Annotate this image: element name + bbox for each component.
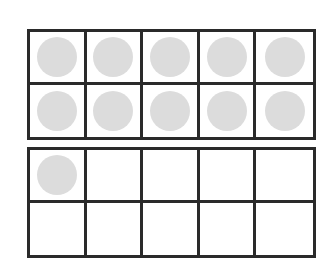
frame-cell <box>200 32 257 85</box>
frame-cell <box>143 85 200 138</box>
ten-frame-bottom <box>27 147 316 258</box>
frame-cell <box>143 32 200 85</box>
counter-circle-icon <box>207 37 247 77</box>
counter-circle-icon <box>93 37 133 77</box>
frame-cell <box>30 32 87 85</box>
frame-cell <box>256 150 313 203</box>
frame-cell <box>87 150 144 203</box>
frame-cell <box>200 85 257 138</box>
counter-circle-icon <box>150 91 190 131</box>
frame-cell <box>87 203 144 256</box>
frame-cell <box>256 32 313 85</box>
counter-circle-icon <box>37 91 77 131</box>
counter-circle-icon <box>37 37 77 77</box>
frame-cell <box>256 85 313 138</box>
frame-cell <box>30 85 87 138</box>
counter-circle-icon <box>150 37 190 77</box>
frame-cell <box>87 85 144 138</box>
frame-cell <box>30 150 87 203</box>
counter-circle-icon <box>207 91 247 131</box>
frame-cell <box>200 203 257 256</box>
frame-cell <box>256 203 313 256</box>
counter-circle-icon <box>37 155 77 195</box>
frame-cell <box>143 203 200 256</box>
frame-cell <box>143 150 200 203</box>
counter-circle-icon <box>93 91 133 131</box>
counter-circle-icon <box>265 37 305 77</box>
frame-cell <box>200 150 257 203</box>
frame-cell <box>87 32 144 85</box>
counter-circle-icon <box>265 91 305 131</box>
ten-frame-top <box>27 29 316 140</box>
frame-cell <box>30 203 87 256</box>
